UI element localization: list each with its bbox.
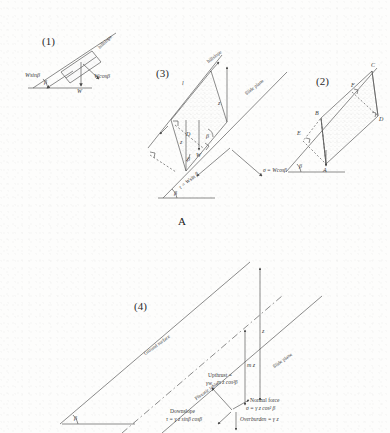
figure-page: (1) hillslope Wsinβ W Wcosβ β (3) hillsl…: [0, 0, 390, 433]
figure-linework: [0, 0, 390, 433]
panel-4-upthrust-expr: m z cos²β: [217, 380, 238, 386]
panel3-rightangle-3: [150, 152, 155, 158]
panel-3-beta-inner-label: β: [206, 133, 209, 139]
panel4-phreatic-line: [122, 296, 282, 433]
panel-3-w-label: W: [196, 152, 201, 158]
panel-4-number: (4): [134, 301, 147, 312]
panel-4-downslope-title: Downslope: [170, 409, 195, 415]
panel-4-angle-label: β: [74, 415, 77, 421]
panel2-parallelogram: [321, 71, 378, 164]
panel4-vector-downslope: [218, 412, 231, 424]
panel-4-normal-title: Normal force: [250, 398, 279, 404]
panel-4-mz-label: m z: [247, 362, 255, 368]
panel-1-angle-label: β: [44, 79, 47, 85]
panel-4-overburden-expr: Overburden = γ z: [240, 417, 279, 423]
panel-2-vertex-d: D: [379, 116, 383, 122]
panel-3-normal-label: σ = Wcosβ: [263, 168, 287, 174]
panel-3-l-label: l: [182, 80, 184, 86]
panel-1-number: (1): [42, 36, 55, 47]
panel-4-upthrust-gamma: γw: [206, 381, 212, 387]
panel-2-vertex-f: F: [351, 82, 355, 88]
panel-3-D-label: D: [186, 131, 190, 137]
panel-3-beta-base-label: β: [174, 190, 177, 196]
panel3-dashed-left: [150, 155, 176, 172]
panel3-vector-sigma: [232, 150, 262, 176]
panel3-arrow-upslope: [160, 126, 168, 134]
panel-4-upthrust-title: Upthrust =: [208, 373, 232, 379]
panel-2-linework: [286, 68, 378, 172]
panel-3-beta-lower-label: β: [187, 156, 190, 162]
panel-1-wcos-label: Wcosβ: [94, 73, 110, 79]
panel-4-z-label: z: [262, 328, 264, 334]
panel-2-angle-label: β: [299, 163, 302, 169]
panel-2-vertex-c: C: [371, 62, 375, 68]
panel2-tick-e: [306, 138, 310, 143]
panel-3-z-label: z: [218, 100, 220, 106]
panel-1-w-label: W: [77, 88, 82, 94]
panel-4-downslope-expr: τ = γ z sinβ cosβ: [166, 417, 202, 423]
panel4-vector-upthrust: [212, 388, 232, 410]
panel-2-vertex-a: A: [323, 167, 327, 173]
panel-2-vertex-e: E: [297, 130, 301, 136]
panel-2-vertex-b: B: [315, 110, 319, 116]
panel-2-number: (2): [316, 76, 329, 87]
panel-3-z-left-label: z: [180, 139, 182, 145]
panel3-arrow-top: [210, 62, 219, 72]
panel-3-number: (3): [156, 68, 169, 79]
figure-caption-a: A: [178, 216, 186, 227]
panel-4-normal-expr: σ = γ z cos² β: [246, 406, 275, 412]
panel-1-wsin-label: Wsinβ: [25, 72, 40, 78]
